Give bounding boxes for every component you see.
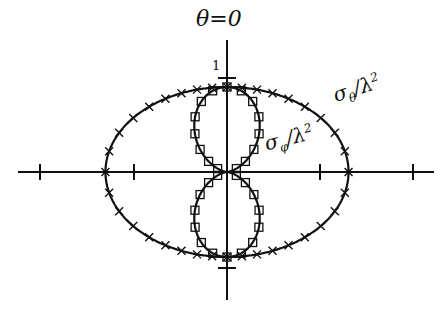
x-marker (129, 222, 137, 230)
scale-one-label: 1 (212, 58, 220, 73)
x-marker (301, 233, 309, 241)
x-marker (301, 103, 309, 111)
x-marker (145, 103, 153, 111)
x-marker (317, 114, 325, 122)
x-marker (115, 129, 123, 137)
x-marker (145, 233, 153, 241)
x-marker (317, 222, 325, 230)
polar-diagram (0, 0, 446, 314)
theta-zero-label: θ=0 (196, 6, 242, 31)
x-marker (331, 207, 339, 215)
x-marker (115, 207, 123, 215)
x-marker (129, 114, 137, 122)
x-marker (331, 129, 339, 137)
